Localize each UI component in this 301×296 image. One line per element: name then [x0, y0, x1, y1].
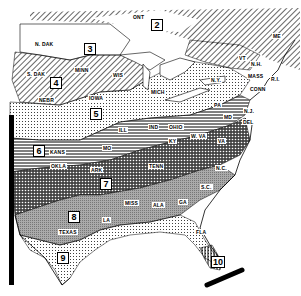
state-label: N.J.: [243, 108, 255, 114]
state-label: MICH: [150, 89, 166, 95]
state-label: MD: [223, 114, 233, 120]
state-label: TENN: [148, 163, 164, 169]
state-label: LA: [102, 217, 111, 223]
state-label: ARK: [90, 167, 103, 173]
zone-10-label: 10: [211, 256, 225, 268]
state-label: KANS: [49, 149, 66, 155]
zone-2-label: 2: [151, 19, 163, 31]
state-label: VA: [217, 138, 226, 144]
state-label: OKLA: [50, 163, 67, 169]
state-label: IND: [148, 124, 159, 130]
state-label: S.C.: [200, 184, 213, 190]
state-label: S. DAK: [26, 71, 46, 77]
state-label: VT: [238, 55, 247, 61]
state-label: R.I.: [270, 76, 281, 82]
state-label: N.Y.: [210, 77, 222, 83]
state-label: MISS: [124, 200, 139, 206]
state-label: MASS: [247, 73, 264, 79]
state-label: FLA: [195, 229, 207, 235]
state-label: ONT: [132, 14, 145, 20]
state-label: TEXAS: [58, 229, 78, 235]
zone-4-label: 4: [50, 77, 62, 89]
left-edge-bar: [9, 115, 14, 285]
state-label: ALA: [152, 202, 165, 208]
hardiness-zone-map: 2 3 4 5 6 7 8 9 10 N. DAK S. DAK MINN WI…: [0, 0, 301, 296]
state-label: MINN: [74, 67, 90, 73]
state-label: CONN: [249, 86, 267, 92]
zone-9-label: 9: [57, 252, 69, 264]
state-label: IOWA: [88, 95, 104, 101]
state-label: ME: [272, 33, 282, 39]
state-label: MO: [102, 145, 112, 151]
zone-6-label: 6: [33, 145, 45, 157]
state-label: GA: [178, 199, 188, 205]
zone-3-label: 3: [84, 43, 96, 55]
state-label: DEL: [242, 119, 255, 125]
state-label: NEBR: [38, 97, 55, 103]
state-label: WIS: [112, 72, 124, 78]
zone-5-label: 5: [90, 108, 102, 120]
state-label: PA: [213, 102, 222, 108]
zone-8-label: 8: [68, 211, 80, 223]
state-label: N.C.: [215, 165, 228, 171]
zone-7-label: 7: [100, 178, 112, 190]
state-label: W. VA: [190, 133, 207, 139]
state-label: N. DAK: [34, 41, 54, 47]
state-label: ILL: [118, 127, 128, 133]
state-label: N.H.: [250, 61, 263, 67]
state-label: KY: [168, 138, 177, 144]
state-label: OHIO: [168, 124, 184, 130]
